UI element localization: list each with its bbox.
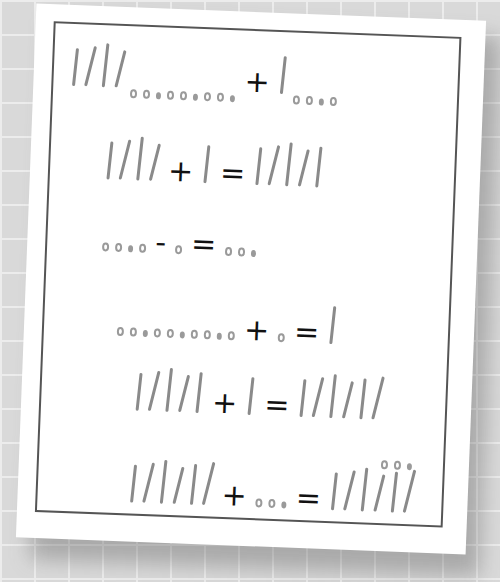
tally-mark bbox=[330, 306, 337, 344]
dot-marks bbox=[252, 492, 290, 512]
tally-mark bbox=[360, 378, 367, 419]
equation-row: += bbox=[114, 298, 342, 349]
dot-mark bbox=[225, 247, 232, 256]
plus-sign: + bbox=[168, 156, 194, 187]
dot-mark bbox=[293, 95, 300, 104]
dot-mark bbox=[128, 245, 133, 252]
dot-marks bbox=[114, 321, 239, 345]
dot-mark bbox=[139, 244, 146, 253]
tally-mark bbox=[72, 48, 79, 86]
tally-mark bbox=[142, 462, 155, 502]
tally-mark bbox=[280, 56, 287, 94]
dot-mark bbox=[407, 463, 412, 470]
dot-mark bbox=[228, 331, 235, 340]
dot-mark bbox=[180, 331, 185, 338]
dot-mark bbox=[319, 98, 324, 105]
dot-mark bbox=[255, 498, 262, 507]
tally-mark bbox=[342, 381, 354, 419]
equation-row: += bbox=[102, 135, 328, 192]
equation-row: + bbox=[67, 42, 342, 100]
dot-mark bbox=[268, 499, 275, 508]
dot-mark bbox=[175, 245, 182, 254]
tally-mark bbox=[361, 467, 369, 511]
dot-mark bbox=[154, 328, 161, 337]
tally-mark bbox=[343, 470, 356, 510]
dot-mark bbox=[217, 93, 224, 102]
equals-sign: = bbox=[220, 158, 246, 189]
worksheet-paper: ++=-=+=+=+= bbox=[16, 4, 486, 555]
tally-mark bbox=[298, 149, 310, 187]
tally-mark bbox=[178, 375, 190, 413]
tally-mark bbox=[136, 373, 143, 411]
tally-mark bbox=[202, 462, 216, 505]
tally-mark bbox=[248, 377, 255, 415]
plus-sign: + bbox=[244, 67, 270, 98]
tally-mark bbox=[391, 472, 398, 513]
tally-mark bbox=[256, 147, 263, 185]
tally-marks bbox=[67, 42, 129, 92]
dot-mark bbox=[156, 92, 161, 99]
dot-mark bbox=[381, 460, 388, 469]
tally-mark bbox=[403, 470, 417, 513]
dot-mark bbox=[117, 327, 124, 336]
dot-mark bbox=[180, 91, 187, 100]
tally-mark bbox=[160, 460, 168, 504]
equals-sign: = bbox=[191, 229, 217, 260]
dot-mark bbox=[204, 330, 211, 339]
tally-mark bbox=[114, 50, 126, 88]
tally-mark bbox=[106, 141, 113, 179]
dot-marks bbox=[222, 241, 260, 261]
dot-mark bbox=[143, 90, 150, 99]
tally-mark bbox=[172, 467, 184, 505]
equals-sign: = bbox=[264, 390, 290, 421]
dot-mark bbox=[278, 333, 285, 342]
dot-mark bbox=[143, 330, 148, 337]
tally-marks bbox=[243, 377, 260, 420]
dot-mark bbox=[193, 94, 198, 101]
tally-mark bbox=[136, 137, 144, 181]
dot-mark bbox=[204, 92, 211, 101]
dot-mark bbox=[217, 333, 222, 340]
tally-mark bbox=[190, 464, 197, 505]
tally-marks bbox=[199, 145, 216, 188]
dot-marks bbox=[127, 83, 239, 106]
tally-mark bbox=[329, 374, 337, 418]
tally-marks bbox=[125, 458, 217, 509]
tally-mark bbox=[203, 145, 210, 183]
dot-marks bbox=[99, 236, 150, 257]
dot-mark bbox=[251, 250, 256, 257]
dot-mark bbox=[191, 330, 198, 339]
tally-marks bbox=[102, 135, 164, 185]
tally-mark bbox=[102, 43, 110, 87]
equation-row: += bbox=[131, 367, 387, 425]
tally-marks bbox=[325, 306, 342, 349]
tally-mark bbox=[315, 146, 322, 187]
worksheet-frame: ++=-=+=+=+= bbox=[35, 21, 462, 527]
tally-mark bbox=[165, 368, 173, 412]
minus-sign: - bbox=[155, 227, 167, 257]
tally-mark bbox=[84, 46, 97, 86]
tally-marks bbox=[251, 141, 328, 192]
tally-mark bbox=[300, 379, 307, 417]
tally-mark bbox=[374, 474, 386, 512]
tally-mark bbox=[268, 145, 281, 185]
tally-marks bbox=[275, 56, 292, 99]
dot-mark bbox=[238, 247, 245, 256]
dot-mark bbox=[330, 97, 337, 106]
equals-sign: = bbox=[295, 483, 321, 514]
dot-mark bbox=[167, 329, 174, 338]
tally-mark bbox=[312, 377, 325, 417]
tally-mark bbox=[148, 371, 161, 411]
dot-mark bbox=[281, 501, 286, 508]
tally-mark bbox=[130, 465, 137, 503]
tally-mark bbox=[331, 472, 338, 510]
equals-sign: = bbox=[294, 317, 320, 348]
dot-mark bbox=[130, 89, 137, 98]
equation-list: ++=-=+=+=+= bbox=[56, 23, 460, 39]
dot-mark bbox=[394, 461, 401, 470]
plus-sign: + bbox=[212, 388, 238, 419]
equation-row: -= bbox=[99, 225, 260, 261]
dot-marks bbox=[290, 89, 341, 110]
equation-row: += bbox=[125, 458, 415, 517]
tally-mark bbox=[119, 139, 132, 179]
